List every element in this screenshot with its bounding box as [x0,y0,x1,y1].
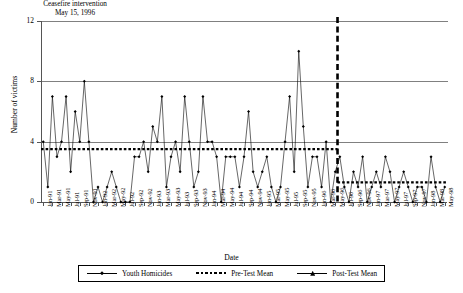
x-tick-mark [326,202,327,206]
legend-item: Pre-Test Mean [196,269,273,278]
x-tick-mark [153,202,154,206]
x-tick-mark [116,202,117,206]
legend-swatch [87,269,117,278]
x-tick-mark [52,202,53,206]
legend-item: Post-Test Mean [297,269,377,278]
x-tick-mark [98,202,99,206]
intervention-annotation-line1: Ceasefire intervention [0,0,150,9]
x-tick-mark [445,202,446,206]
x-tick-mark [144,202,145,206]
x-tick-mark [180,202,181,206]
x-tick-mark [107,202,108,206]
y-tick-label: 0 [18,197,34,206]
x-tick-mark [280,202,281,206]
x-tick-mark [290,202,291,206]
y-tick-label: 8 [18,76,34,85]
x-tick-mark [125,202,126,206]
legend-swatch [297,269,327,278]
y-tick-label: 12 [18,16,34,25]
x-tick-mark [43,202,44,206]
x-tick-mark [244,202,245,206]
y-tick-mark [37,202,41,203]
y-tick-mark [37,81,41,82]
x-tick-mark [417,202,418,206]
x-tick-mark [344,202,345,206]
x-tick-mark [217,202,218,206]
y-tick-mark [37,142,41,143]
x-axis-title: Date [0,253,463,262]
x-tick-mark [372,202,373,206]
x-tick-mark [62,202,63,206]
x-tick-mark [390,202,391,206]
x-tick-mark [408,202,409,206]
x-tick-mark [226,202,227,206]
x-tick-mark [198,202,199,206]
gridline [42,142,448,143]
x-tick-mark [189,202,190,206]
plot-area [41,21,447,202]
gridline [42,21,448,22]
x-tick-mark [208,202,209,206]
x-tick-label: May-98 [447,188,454,207]
y-tick-label: 4 [18,137,34,146]
x-tick-mark [353,202,354,206]
x-tick-mark [135,202,136,206]
x-tick-mark [262,202,263,206]
legend-label: Post-Test Mean [332,270,377,278]
legend-label: Pre-Test Mean [231,270,273,278]
legend-swatch [196,269,226,278]
x-tick-mark [299,202,300,206]
x-tick-mark [271,202,272,206]
x-tick-mark [89,202,90,206]
x-tick-mark [253,202,254,206]
x-tick-mark [381,202,382,206]
x-tick-mark [399,202,400,206]
y-tick-mark [37,21,41,22]
x-tick-mark [162,202,163,206]
x-tick-mark [308,202,309,206]
intervention-annotation: Ceasefire intervention May 15, 1996 [0,0,150,17]
x-tick-mark [235,202,236,206]
x-tick-mark [426,202,427,206]
x-tick-mark [335,202,336,206]
gridline [42,81,448,82]
x-tick-mark [317,202,318,206]
x-tick-mark [80,202,81,206]
x-tick-mark [71,202,72,206]
chart-legend: Youth HomicidesPre-Test MeanPost-Test Me… [78,265,385,282]
x-tick-mark [363,202,364,206]
x-tick-mark [171,202,172,206]
legend-label: Youth Homicides [122,270,172,278]
legend-item: Youth Homicides [87,269,172,278]
chart-figure: Ceasefire intervention May 15, 1996 Numb… [0,0,463,293]
x-tick-mark [436,202,437,206]
